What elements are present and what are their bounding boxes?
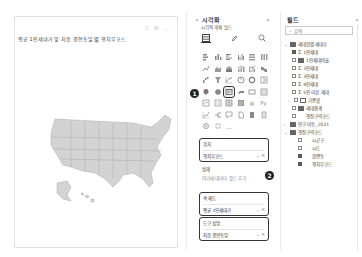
field-item[interactable]: Σ1인세대 bbox=[284, 48, 356, 56]
ribbon-chart-icon[interactable] bbox=[259, 64, 269, 74]
stacked-column-chart-icon[interactable] bbox=[213, 52, 223, 62]
shape-map-icon[interactable] bbox=[236, 87, 246, 97]
collapse-left-icon[interactable]: « bbox=[195, 16, 199, 23]
table-node-households[interactable]: ⌄세대원별 세대수 bbox=[284, 40, 356, 48]
location-field-controls[interactable]: ⌄ ✕ bbox=[256, 153, 265, 159]
tooltips-well[interactable]: 도구 설명 처음 결연동일 ⌄ ✕ bbox=[199, 217, 269, 241]
field-item[interactable]: ›기준월 bbox=[284, 96, 356, 104]
slicer-icon[interactable] bbox=[213, 98, 223, 108]
legend-well[interactable]: 범례 여기에 데이터 필드 추가 bbox=[199, 166, 269, 181]
python-visual-icon[interactable]: Py bbox=[259, 98, 269, 108]
gauge-icon[interactable] bbox=[247, 87, 257, 97]
field-item[interactable]: 시도 bbox=[284, 144, 356, 152]
stacked-bar-chart-icon[interactable] bbox=[201, 52, 211, 62]
tooltips-field-controls[interactable]: ⌄ ✕ bbox=[256, 232, 265, 238]
azure-map-icon[interactable] bbox=[213, 121, 223, 131]
checkbox-checked[interactable] bbox=[298, 154, 302, 158]
narrative-icon[interactable] bbox=[236, 110, 246, 120]
clustered-column-chart-icon[interactable] bbox=[236, 52, 246, 62]
field-item[interactable]: Σ5인 이상 세대 bbox=[284, 88, 356, 96]
clustered-bar-chart-icon[interactable] bbox=[224, 52, 234, 62]
measure-icon bbox=[298, 106, 304, 111]
area-chart-icon[interactable] bbox=[213, 64, 223, 74]
card-icon[interactable] bbox=[259, 87, 269, 97]
power-apps-icon[interactable] bbox=[259, 110, 269, 120]
checkbox-checked[interactable] bbox=[292, 50, 296, 54]
pie-chart-icon[interactable] bbox=[236, 75, 246, 85]
line-column-chart-icon[interactable] bbox=[236, 64, 246, 74]
expand-chevron-icon[interactable]: › bbox=[284, 122, 288, 127]
matrix-icon[interactable] bbox=[236, 98, 246, 108]
location-field-chip[interactable]: 행치부코드 ⌄ ✕ bbox=[203, 150, 265, 159]
tooltips-field-chip[interactable]: 처음 결연동일 ⌄ ✕ bbox=[203, 229, 265, 238]
expand-fields-icon[interactable]: » bbox=[355, 16, 359, 23]
tree-label: 1인세대 bbox=[303, 49, 318, 55]
field-item[interactable]: 세대합계 bbox=[284, 104, 356, 112]
tree-label: 행정구역코드 bbox=[306, 113, 330, 119]
table-node-migration[interactable]: ›인구 이동_2021 bbox=[284, 120, 356, 128]
field-item[interactable]: Σ3인세대 bbox=[284, 72, 356, 80]
field-item[interactable]: 시군구 bbox=[284, 136, 356, 144]
100-column-chart-icon[interactable] bbox=[259, 52, 269, 62]
checkbox[interactable] bbox=[292, 90, 296, 94]
checkbox[interactable] bbox=[292, 58, 296, 62]
line-chart-icon[interactable] bbox=[201, 64, 211, 74]
field-item[interactable]: 행정구역코드 bbox=[284, 112, 356, 120]
decomposition-tree-icon[interactable] bbox=[213, 110, 223, 120]
expand-chevron-icon[interactable]: › bbox=[288, 98, 292, 103]
stacked-area-chart-icon[interactable] bbox=[224, 64, 234, 74]
power-automate-icon[interactable] bbox=[201, 121, 211, 131]
tree-label: 세대합계 bbox=[306, 105, 322, 111]
more-visuals-icon[interactable]: … bbox=[224, 121, 234, 131]
paginated-report-icon[interactable] bbox=[247, 110, 257, 120]
treemap-icon[interactable] bbox=[259, 75, 269, 85]
qa-icon[interactable] bbox=[224, 110, 234, 120]
100-bar-chart-icon[interactable] bbox=[247, 52, 257, 62]
globe-map-icon[interactable] bbox=[213, 87, 223, 97]
checkbox[interactable] bbox=[292, 114, 296, 118]
field-item[interactable]: 읍면동 bbox=[284, 152, 356, 160]
waterfall-chart-icon[interactable] bbox=[201, 75, 211, 85]
map-visual[interactable]: ▽ ⊡ … 평균 1인세대가 및 처음 결연동일 별 행치부코드 bbox=[14, 16, 178, 248]
field-item[interactable]: Σ4인세대 bbox=[284, 80, 356, 88]
funnel-chart-icon[interactable] bbox=[213, 75, 223, 85]
fields-search-input[interactable]: ⌕ 검색 bbox=[285, 26, 353, 35]
fields-pane-title: 필드 bbox=[287, 15, 299, 24]
expand-right-icon[interactable]: » bbox=[266, 16, 270, 23]
scatter-chart-icon[interactable] bbox=[224, 75, 234, 85]
legend-drop-placeholder[interactable]: 여기에 데이터 필드 추가 bbox=[199, 175, 269, 181]
table-icon[interactable] bbox=[224, 98, 234, 108]
visual-header-tools[interactable]: ▽ ⊡ … bbox=[145, 25, 171, 31]
checkbox-checked[interactable] bbox=[298, 162, 302, 166]
color-saturation-well[interactable]: 색 채도 평균 1인세대가 ⌄ ✕ bbox=[199, 192, 269, 216]
us-map[interactable] bbox=[23, 107, 183, 217]
key-influencers-icon[interactable] bbox=[201, 110, 211, 120]
field-item[interactable]: 행치부코드 bbox=[284, 160, 356, 168]
filled-map-icon[interactable] bbox=[224, 87, 234, 97]
analytics-mode-icon[interactable] bbox=[257, 33, 267, 43]
expand-chevron-icon[interactable]: ⌄ bbox=[284, 42, 288, 47]
field-item[interactable]: Σ2인세대 bbox=[284, 64, 356, 72]
color-saturation-field-chip[interactable]: 평균 1인세대가 ⌄ ✕ bbox=[203, 204, 265, 213]
measure-icon bbox=[298, 58, 304, 63]
expand-chevron-icon[interactable]: ⌄ bbox=[284, 130, 288, 135]
checkbox[interactable] bbox=[292, 82, 296, 86]
line-clustered-column-icon[interactable] bbox=[247, 64, 257, 74]
checkbox[interactable] bbox=[294, 98, 298, 102]
field-item[interactable]: 1인세대비율 bbox=[284, 56, 356, 64]
location-well[interactable]: 위치 행치부코드 ⌄ ✕ bbox=[199, 138, 269, 162]
table-node-admin-codes[interactable]: ⌄행정구역코드 bbox=[284, 128, 356, 136]
checkbox[interactable] bbox=[292, 66, 296, 70]
fields-mode-icon[interactable] bbox=[201, 33, 211, 43]
map-icon[interactable] bbox=[201, 87, 211, 97]
checkbox[interactable] bbox=[298, 146, 302, 150]
fields-scrollbar[interactable] bbox=[357, 24, 358, 250]
color-saturation-field-controls[interactable]: ⌄ ✕ bbox=[256, 207, 265, 213]
checkbox[interactable] bbox=[292, 74, 296, 78]
donut-chart-icon[interactable] bbox=[247, 75, 257, 85]
r-script-icon[interactable]: R bbox=[247, 98, 257, 108]
checkbox[interactable] bbox=[298, 138, 302, 142]
format-mode-icon[interactable] bbox=[229, 33, 239, 43]
checkbox[interactable] bbox=[292, 106, 296, 110]
kpi-icon[interactable] bbox=[201, 98, 211, 108]
